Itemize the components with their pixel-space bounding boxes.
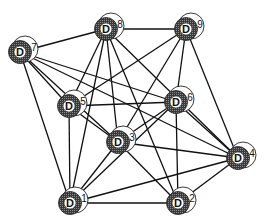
node-2: D2 (167, 187, 197, 215)
node-4: D4 (227, 142, 257, 170)
edges-layer (20, 29, 238, 203)
node-id-label: 4 (249, 148, 255, 159)
node-id-label: 8 (117, 19, 123, 30)
edge-1-4 (70, 158, 238, 203)
node-8: D8 (95, 13, 125, 41)
node-symbol: D (114, 136, 122, 148)
node-symbol: D (174, 197, 182, 209)
node-1: D1 (59, 187, 89, 215)
node-symbol: D (66, 197, 74, 209)
node-symbol: D (16, 46, 24, 58)
nodes-layer: D1D2D3D4D5D6D7D8D9 (9, 13, 257, 215)
node-3: D3 (107, 126, 137, 154)
node-9: D9 (175, 13, 205, 41)
node-7: D7 (9, 36, 39, 64)
node-5: D5 (58, 90, 88, 118)
node-symbol: D (234, 152, 242, 164)
node-symbol: D (102, 23, 110, 35)
node-id-label: 3 (129, 132, 135, 143)
node-symbol: D (65, 100, 73, 112)
edge-8-3 (106, 29, 118, 142)
node-id-label: 2 (189, 193, 195, 204)
node-id-label: 6 (187, 92, 193, 103)
node-id-label: 9 (197, 19, 203, 30)
node-symbol: D (172, 96, 180, 108)
network-diagram: D1D2D3D4D5D6D7D8D9 (0, 0, 269, 223)
edge-9-4 (186, 29, 238, 158)
node-symbol: D (182, 23, 190, 35)
node-id-label: 1 (81, 193, 87, 204)
node-id-label: 5 (80, 96, 86, 107)
node-id-label: 7 (31, 42, 37, 53)
edge-3-4 (118, 142, 238, 158)
